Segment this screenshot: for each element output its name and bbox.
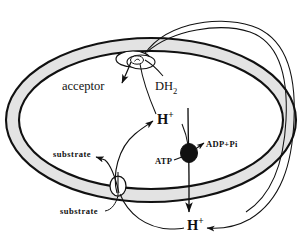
label-proton-outer-base: H — [187, 217, 198, 233]
label-adp-pi: ADP+Pi — [206, 140, 238, 149]
label-dh2: DH2 — [155, 80, 177, 95]
label-substrate-inner: substrate — [53, 150, 91, 159]
label-dh2-subscript: 2 — [173, 86, 177, 96]
label-substrate-outer: substrate — [60, 207, 98, 216]
complex-to-inner-proton-line — [140, 64, 156, 114]
label-atp: ATP — [155, 157, 172, 166]
label-proton-inner-base: H — [157, 111, 168, 127]
substrate-carrier-group — [110, 172, 126, 196]
label-proton-inner: H+ — [157, 112, 174, 127]
diagram-canvas — [0, 0, 303, 246]
membrane-bioenergetics-diagram: acceptor DH2 H+ H+ ATP ADP+Pi substrate … — [0, 0, 303, 246]
label-dh2-base: DH — [155, 79, 173, 93]
substrate-inner-arrow — [96, 157, 105, 160]
atp-input-line — [174, 157, 182, 160]
label-proton-inner-charge: + — [168, 110, 173, 120]
respiratory-complex-group — [116, 51, 155, 69]
label-proton-outer: H+ — [187, 218, 204, 233]
label-acceptor: acceptor — [62, 80, 104, 93]
inner-proton-to-synthase-line — [182, 124, 188, 145]
membrane-inner-boundary — [19, 51, 283, 189]
atp-synthase-f1-head — [181, 144, 198, 163]
dehydrogenase-core — [131, 56, 144, 64]
label-proton-outer-charge: + — [198, 216, 203, 226]
